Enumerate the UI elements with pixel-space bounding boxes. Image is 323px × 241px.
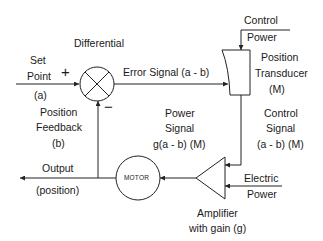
label-power-signal-1: Power	[165, 107, 195, 120]
label-feedback-2: Feedback	[36, 121, 82, 134]
label-amplifier-1: Amplifier	[197, 207, 238, 220]
label-differential: Differential	[74, 37, 124, 50]
position-transducer-block	[222, 50, 250, 95]
label-transducer-1: Position	[261, 51, 298, 64]
label-error-signal: Error Signal (a - b)	[123, 66, 209, 79]
control-signal-line	[225, 95, 241, 165]
label-output-1: Output	[42, 162, 74, 175]
label-feedback-3: (b)	[52, 137, 65, 150]
label-power-signal-2: Signal	[165, 122, 194, 135]
label-transducer-2: Transducer	[255, 67, 308, 80]
label-control-power-1: Control	[244, 14, 278, 27]
plus-sign: +	[61, 64, 70, 79]
minus-sign: −	[104, 99, 113, 114]
label-control-signal-3: (a - b) (M)	[257, 138, 304, 151]
label-control-power-2: Power	[247, 31, 277, 44]
label-power-signal-3: g(a - b) (M)	[153, 138, 206, 151]
label-transducer-3: (M)	[269, 83, 285, 96]
label-output-2: (position)	[36, 184, 79, 197]
label-control-signal-2: Signal	[266, 122, 295, 135]
amplifier-block	[196, 157, 225, 199]
label-motor: MOTOR	[124, 174, 149, 181]
label-electric-power-1: Electric	[244, 172, 278, 185]
label-feedback-1: Position	[40, 106, 77, 119]
label-set-point-1: Set	[30, 54, 46, 67]
label-electric-power-2: Power	[247, 188, 277, 201]
label-control-signal-1: Control	[264, 107, 298, 120]
label-set-point-var: (a)	[34, 89, 47, 102]
label-set-point-2: Point	[27, 70, 51, 83]
label-amplifier-2: with gain (g)	[189, 222, 246, 235]
